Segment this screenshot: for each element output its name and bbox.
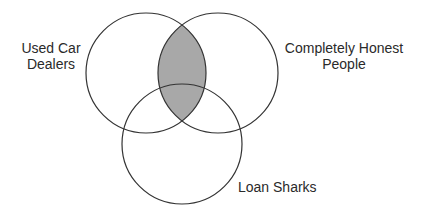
venn-diagram [0,0,423,214]
label-line: Dealers [14,56,88,72]
label-used-car-dealers: Used Car Dealers [14,40,88,72]
label-completely-honest-people: Completely Honest People [280,40,408,72]
label-line: Completely Honest [280,40,408,56]
label-line: Used Car [14,40,88,56]
label-loan-sharks: Loan Sharks [238,179,324,195]
highlight-intersection [158,13,278,133]
label-line: Loan Sharks [238,179,324,195]
label-line: People [280,56,408,72]
